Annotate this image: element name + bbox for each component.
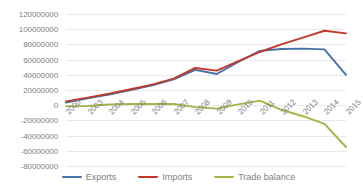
y-axis-tick-label: -80000000 <box>21 162 58 171</box>
legend-item[interactable]: Imports <box>138 172 192 182</box>
y-axis-tick-label: 80000000 <box>23 40 58 49</box>
chart-legend: ExportsImportsTrade balance <box>0 172 357 182</box>
legend-item[interactable]: Trade balance <box>214 172 295 182</box>
x-axis-tick-label: 2015 <box>344 98 363 117</box>
legend-label: Trade balance <box>238 172 295 182</box>
legend-item[interactable]: Exports <box>62 172 117 182</box>
y-axis-tick-label: 120000000 <box>19 10 58 19</box>
legend-label: Exports <box>86 172 117 182</box>
series-line-imports <box>66 31 346 102</box>
x-axis: 2000200320042005200620072008200920102011… <box>66 110 346 154</box>
gridline <box>66 166 346 167</box>
legend-label: Imports <box>162 172 192 182</box>
y-axis-tick-label: -40000000 <box>21 131 58 140</box>
y-axis-tick-label: 60000000 <box>23 55 58 64</box>
y-axis-tick-label: -20000000 <box>21 116 58 125</box>
y-axis-tick-label: 0 <box>54 101 58 110</box>
legend-swatch-icon <box>214 176 234 178</box>
y-axis-tick-label: -60000000 <box>21 146 58 155</box>
legend-swatch-icon <box>138 176 158 178</box>
y-axis-tick-label: 40000000 <box>23 70 58 79</box>
y-axis-tick-label: 100000000 <box>19 25 58 34</box>
y-axis-tick-label: 20000000 <box>23 86 58 95</box>
legend-swatch-icon <box>62 176 82 178</box>
y-axis: 1200000001000000008000000060000000400000… <box>0 14 62 166</box>
